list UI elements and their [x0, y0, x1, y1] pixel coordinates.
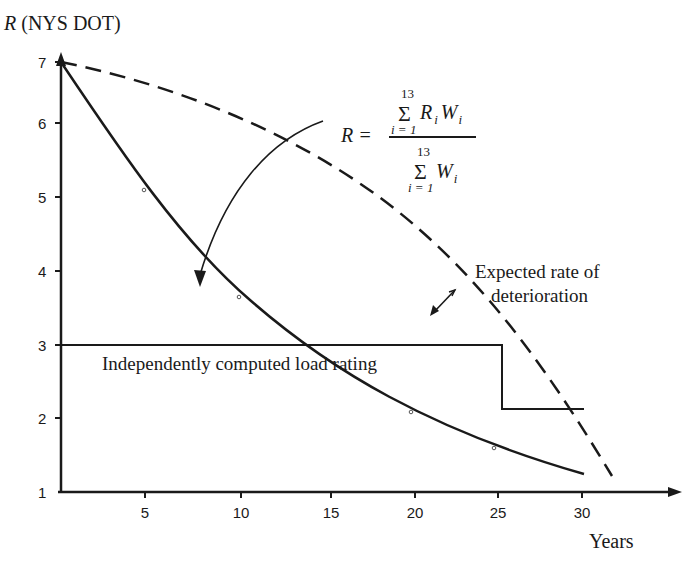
load-rating-label: Independently computed load rating [102, 353, 377, 374]
svg-text:R =: R = [340, 124, 372, 146]
data-point-marker [237, 295, 241, 299]
svg-text:Wi: Wi [436, 160, 458, 186]
expected-pointer-arrow [434, 290, 455, 312]
y-axis-label: R (NYS DOT) [3, 12, 121, 35]
data-point-marker [409, 410, 413, 414]
x-tick-label: 20 [407, 504, 424, 521]
svg-text:13: 13 [417, 144, 430, 159]
svg-text:i = 1: i = 1 [391, 122, 416, 137]
x-tick-label: 30 [574, 504, 591, 521]
data-point-marker [142, 188, 146, 192]
y-tick-label: 4 [38, 263, 46, 280]
y-tick-label: 5 [38, 189, 46, 206]
y-tick-label: 3 [38, 337, 46, 354]
x-tick-label: 15 [323, 504, 340, 521]
y-ticks: 7 6 5 4 3 2 1 [38, 54, 61, 501]
y-tick-label: 2 [38, 410, 46, 427]
x-tick-label: 25 [490, 504, 507, 521]
y-tick-label: 7 [38, 54, 46, 71]
x-axis-label: Years [589, 530, 634, 552]
svg-text:13: 13 [401, 86, 414, 101]
data-point-marker [492, 446, 496, 450]
deterioration-chart: R (NYS DOT) 7 6 5 4 3 2 1 5 10 15 20 25 … [0, 0, 690, 563]
expected-rate-label-line2: deterioration [491, 285, 589, 306]
arrowhead-icon [194, 270, 206, 287]
expected-rate-label: Expected rate of [475, 261, 600, 282]
arrowhead-icon [430, 305, 439, 316]
x-ticks: 5 10 15 20 25 30 [141, 492, 591, 521]
formula-pointer-arrow [200, 121, 323, 275]
svg-text:i = 1: i = 1 [408, 180, 433, 195]
weighted-average-formula: R = 13 Σ i = 1 RiWi 13 Σ i = 1 Wi [340, 86, 476, 195]
y-tick-label: 1 [38, 484, 46, 501]
data-point-markers [142, 188, 496, 450]
x-axis-arrow-icon [668, 487, 682, 497]
x-tick-label: 5 [141, 504, 149, 521]
x-tick-label: 10 [233, 504, 250, 521]
y-tick-label: 6 [38, 115, 46, 132]
svg-text:RiWi: RiWi [419, 101, 463, 127]
